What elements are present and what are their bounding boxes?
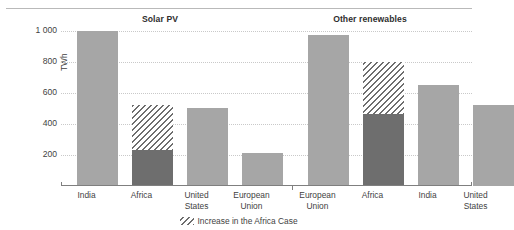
top-divider-rule — [6, 8, 472, 9]
bar-solar-united-states — [187, 108, 228, 186]
bar-segment-base — [363, 114, 404, 186]
y-tick-label-200: 200 — [9, 149, 57, 159]
bar-other-united-states — [473, 105, 514, 186]
gridline-600 — [61, 93, 472, 94]
gridline-1000 — [61, 31, 472, 32]
panel-title-other-renewables: Other renewables — [300, 14, 440, 24]
y-tick-label-1000: 1 000 — [9, 25, 57, 35]
x-axis-left-cap — [61, 182, 62, 186]
hatch-swatch-icon — [180, 217, 194, 225]
bar-segment-base — [473, 105, 514, 186]
bar-solar-africa — [132, 105, 173, 186]
x-tick-label-solar-european-union: European Union — [217, 190, 286, 211]
gridline-400 — [61, 124, 472, 125]
bar-other-india — [418, 85, 459, 187]
bar-segment-base — [132, 150, 173, 186]
y-tick-label-400: 400 — [9, 118, 57, 128]
bar-segment-increase — [363, 62, 404, 114]
y-tick-label-600: 600 — [9, 87, 57, 97]
legend-label-increase-africa-case: Increase in the Africa Case — [197, 216, 297, 226]
bar-other-european-union — [308, 35, 349, 186]
bar-segment-base — [308, 35, 349, 186]
bar-other-africa — [363, 62, 404, 186]
y-tick-label-800: 800 — [9, 56, 57, 66]
bar-segment-base — [242, 153, 283, 186]
bar-segment-increase — [132, 105, 173, 151]
bar-segment-base — [418, 85, 459, 187]
chart-legend: Increase in the Africa Case — [0, 216, 478, 226]
plot-area: TWh 1 000 800 600 400 200 — [61, 31, 472, 186]
bar-segment-base — [187, 108, 228, 186]
x-axis-line — [61, 185, 472, 186]
panel-title-solar-pv: Solar PV — [100, 14, 220, 24]
bar-solar-india — [77, 31, 118, 186]
bar-solar-european-union — [242, 153, 283, 186]
x-tick-label-other-united-states: United States — [441, 190, 510, 211]
x-axis-right-cap — [471, 182, 472, 186]
gridline-800 — [61, 62, 472, 63]
bar-segment-base — [77, 31, 118, 186]
